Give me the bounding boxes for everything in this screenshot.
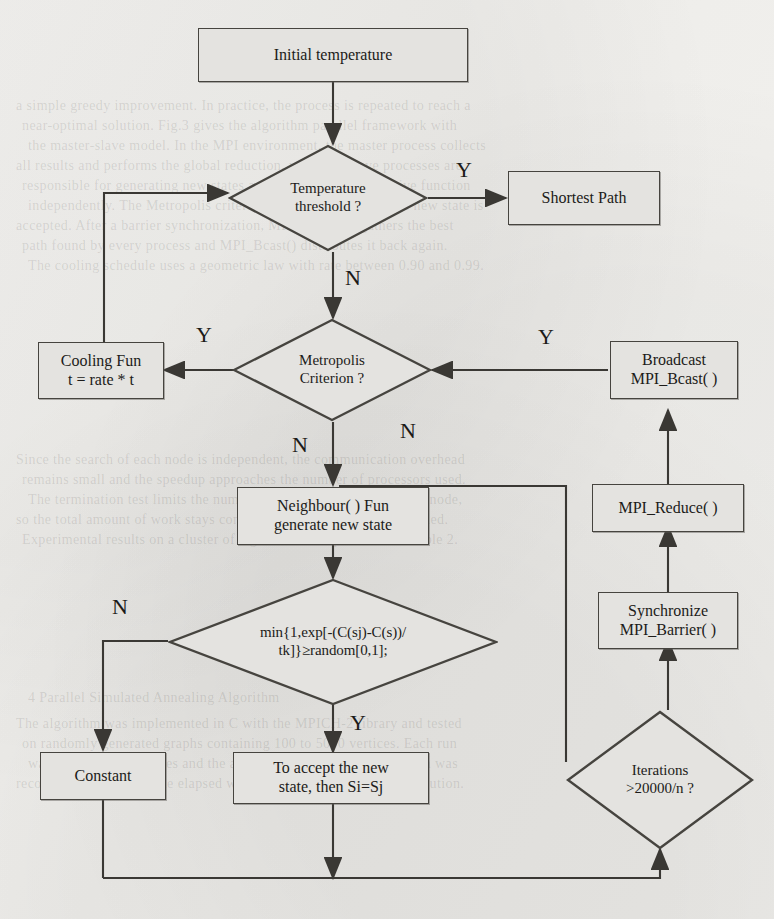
node-label-line2: >20000/n ? — [626, 780, 694, 798]
node-label: Initial temperature — [274, 46, 393, 65]
node-iterations-test[interactable]: Iterations >20000/n ? — [566, 710, 754, 850]
node-label-line2: threshold ? — [290, 198, 366, 216]
node-label-line1: Neighbour( ) Fun — [277, 497, 389, 516]
node-label-line1: Broadcast — [642, 351, 706, 370]
node-constant[interactable]: Constant — [40, 752, 166, 800]
node-broadcast-mpi-bcast[interactable]: Broadcast MPI_Bcast( ) — [610, 341, 738, 399]
node-label-line2: Criterion ? — [299, 370, 365, 388]
node-cooling-fun[interactable]: Cooling Fun t = rate * t — [38, 342, 164, 399]
branch-label-min-yes: Y — [350, 710, 366, 736]
node-label-line1: Synchronize — [628, 602, 708, 621]
node-label-line1: Metropolis — [299, 352, 365, 370]
node-label-line2: MPI_Bcast( ) — [631, 370, 718, 389]
node-label-line2: generate new state — [274, 516, 392, 535]
node-shortest-path[interactable]: Shortest Path — [508, 171, 660, 225]
node-label-line1: Cooling Fun — [61, 352, 141, 371]
node-label-line2: tk]}≥random[0,1]; — [260, 642, 406, 660]
node-mpi-reduce[interactable]: MPI_Reduce( ) — [592, 484, 744, 532]
node-metropolis-acceptance-test[interactable]: min{1,exp[-(C(sj)-C(s))/ tk]}≥random[0,1… — [168, 578, 498, 706]
branch-label-threshold-no: N — [345, 265, 361, 291]
node-neighbour-fun[interactable]: Neighbour( ) Fun generate new state — [237, 487, 429, 545]
node-label-line2: state, then Si=Sj — [279, 778, 384, 797]
node-temperature-threshold[interactable]: Temperature threshold ? — [228, 144, 428, 252]
node-label: MPI_Reduce( ) — [618, 499, 717, 518]
node-label-line1: Temperature — [290, 180, 366, 198]
node-accept-new-state[interactable]: To accept the new state, then Si=Sj — [233, 752, 429, 804]
node-initial-temperature[interactable]: Initial temperature — [198, 28, 468, 82]
branch-label-metropolis-yes-right: Y — [538, 324, 554, 350]
node-label-line1: Iterations — [626, 762, 694, 780]
node-label: Shortest Path — [542, 189, 627, 208]
node-label: Constant — [75, 767, 132, 786]
branch-label-metropolis-yes-left: Y — [196, 322, 212, 348]
node-metropolis-criterion[interactable]: Metropolis Criterion ? — [232, 318, 432, 422]
branch-label-min-no: N — [112, 594, 128, 620]
branch-label-threshold-yes: Y — [456, 157, 472, 183]
node-label-line1: min{1,exp[-(C(sj)-C(s))/ — [260, 624, 406, 642]
branch-label-metropolis-no: N — [292, 432, 308, 458]
node-synchronize-mpi-barrier[interactable]: Synchronize MPI_Barrier( ) — [598, 592, 738, 649]
node-label-line2: t = rate * t — [68, 371, 134, 390]
node-label-line2: MPI_Barrier( ) — [620, 621, 716, 640]
node-label-line1: To accept the new — [273, 759, 389, 778]
